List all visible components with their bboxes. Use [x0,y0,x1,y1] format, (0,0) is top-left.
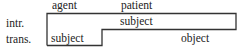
grouping-outline [0,0,244,49]
